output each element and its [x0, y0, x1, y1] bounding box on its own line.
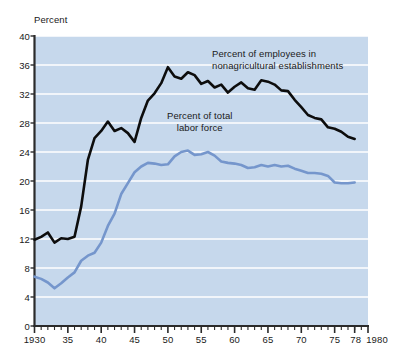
- series-label-nonagricultural: Percent of employees in nonagricultural …: [212, 48, 343, 71]
- series-label-total-labor-force: Percent of total labor force: [167, 110, 233, 133]
- union-membership-chart: Percent 0481216202428323640 193035404550…: [0, 0, 393, 362]
